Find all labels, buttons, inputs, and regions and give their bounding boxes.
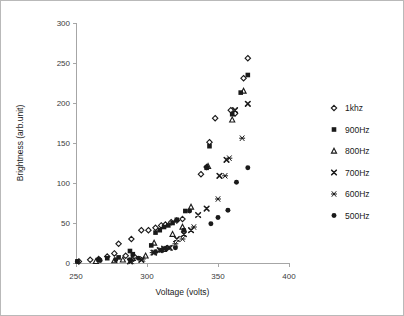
data-point <box>240 136 245 141</box>
data-point <box>166 223 171 228</box>
y-tick-label: 50 <box>61 219 70 228</box>
y-tick-label: 100 <box>57 179 71 188</box>
scatter-plot: 050100150200250300250300350400Voltage (v… <box>1 1 404 316</box>
data-point <box>246 73 251 78</box>
data-point <box>136 256 141 261</box>
data-point <box>163 246 168 251</box>
chart-legend: 1khz900Hz800Hz700Hz600Hz500Hz <box>331 103 369 221</box>
data-point <box>159 248 164 253</box>
data-point <box>245 165 250 170</box>
data-point <box>153 225 158 230</box>
series-1khz <box>76 56 250 265</box>
data-point <box>234 180 239 185</box>
axes-layer: 050100150200250300250300350400Voltage (v… <box>15 19 296 297</box>
data-point <box>153 249 158 254</box>
data-point <box>207 144 212 149</box>
data-point <box>123 253 128 258</box>
data-points-layer <box>75 56 251 265</box>
data-point <box>204 206 209 211</box>
data-point <box>188 204 193 209</box>
legend-item-1khz[interactable]: 1khz <box>331 103 363 113</box>
legend-item-900hz[interactable]: 900Hz <box>332 125 370 135</box>
data-point <box>183 209 188 214</box>
series-500hz <box>75 165 250 264</box>
data-point <box>212 116 217 121</box>
legend-marker-open-triangle-icon <box>331 148 336 153</box>
data-point <box>198 172 203 177</box>
data-point <box>170 232 175 237</box>
data-point <box>98 258 103 263</box>
legend-marker-bold-x-icon <box>332 170 337 175</box>
data-point <box>180 216 185 221</box>
data-point <box>180 237 185 242</box>
data-point <box>152 240 157 245</box>
data-point <box>173 245 178 250</box>
legend-marker-filled-square-icon <box>332 127 337 132</box>
x-tick-label: 350 <box>211 272 225 281</box>
y-tick-label: 0 <box>66 259 71 268</box>
legend-label: 900Hz <box>345 125 370 135</box>
legend-label: 700Hz <box>345 168 370 178</box>
legend-label: 600Hz <box>345 189 370 199</box>
data-point <box>139 228 144 233</box>
data-point <box>146 228 151 233</box>
data-point <box>157 228 162 233</box>
data-point <box>225 208 230 213</box>
legend-label: 1khz <box>345 103 363 113</box>
x-tick-label: 250 <box>69 272 83 281</box>
data-point <box>245 56 250 61</box>
y-tick-label: 250 <box>57 59 71 68</box>
y-tick-label: 300 <box>57 19 71 28</box>
legend-item-600hz[interactable]: 600Hz <box>331 189 369 199</box>
legend-item-500hz[interactable]: 500Hz <box>332 211 370 221</box>
data-point <box>208 221 213 226</box>
data-point <box>175 237 180 242</box>
chart-figure: 050100150200250300250300350400Voltage (v… <box>0 0 404 316</box>
x-tick-label: 400 <box>282 272 296 281</box>
series-700hz <box>128 102 250 264</box>
data-point <box>105 256 110 261</box>
x-axis-title: Voltage (volts) <box>156 287 210 297</box>
data-point <box>75 259 80 264</box>
data-point <box>175 218 180 223</box>
data-point <box>153 230 158 235</box>
data-point <box>181 228 186 233</box>
data-point <box>116 241 121 246</box>
data-point <box>216 215 221 220</box>
data-point <box>129 236 134 241</box>
legend-label: 800Hz <box>345 146 370 156</box>
data-point <box>187 209 192 214</box>
data-point <box>217 174 222 179</box>
y-axis-title: Brightness (arb.unit) <box>15 105 25 182</box>
legend-marker-filled-circle-icon <box>332 213 337 218</box>
data-point <box>227 156 232 161</box>
data-point <box>162 225 167 230</box>
legend-marker-open-diamond-icon <box>331 105 336 110</box>
series-600hz <box>129 136 245 264</box>
data-point <box>88 257 93 262</box>
data-point <box>191 225 196 230</box>
data-point <box>196 213 201 218</box>
data-point <box>113 257 118 262</box>
legend-item-700hz[interactable]: 700Hz <box>332 168 370 178</box>
data-point <box>170 221 175 226</box>
data-point <box>241 88 246 93</box>
data-point <box>223 173 228 178</box>
data-point <box>241 76 246 81</box>
x-tick-label: 300 <box>140 272 154 281</box>
legend-marker-asterisk-icon <box>331 192 336 197</box>
data-point <box>112 251 117 256</box>
series-900hz <box>75 73 250 264</box>
legend-item-800hz[interactable]: 800Hz <box>331 146 369 156</box>
data-point <box>230 117 235 122</box>
data-point <box>127 257 132 262</box>
legend-label: 500Hz <box>345 211 370 221</box>
data-point <box>215 197 220 202</box>
y-tick-label: 200 <box>57 99 71 108</box>
data-point <box>246 102 251 107</box>
y-tick-label: 150 <box>57 139 71 148</box>
